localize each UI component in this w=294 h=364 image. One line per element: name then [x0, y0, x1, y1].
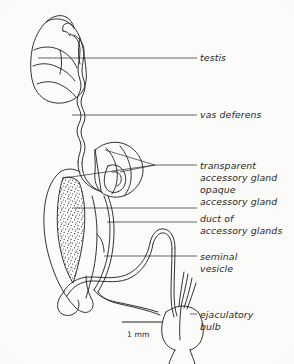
label-accessory-gland-1: accessory gland	[200, 172, 277, 184]
label-ejaculatory: ejaculatory	[200, 309, 253, 321]
label-duct-of: duct of	[200, 213, 233, 225]
label-vesicle: vesicle	[200, 263, 233, 275]
label-accessory-gland-2: accessory gland	[200, 196, 277, 208]
label-seminal: seminal	[200, 251, 237, 263]
label-bulb: bulb	[200, 321, 221, 333]
scale-bar-label: 1 mm	[127, 330, 149, 339]
label-testis: testis	[200, 52, 226, 64]
anatomical-figure: testis vas deferens transparent accessor…	[0, 0, 294, 364]
label-accessory-glands: accessory glands	[200, 225, 282, 237]
label-transparent: transparent	[200, 160, 256, 172]
label-vas-deferens: vas deferens	[200, 109, 262, 121]
label-opaque: opaque	[200, 184, 236, 196]
label-layer: testis vas deferens transparent accessor…	[0, 0, 294, 364]
